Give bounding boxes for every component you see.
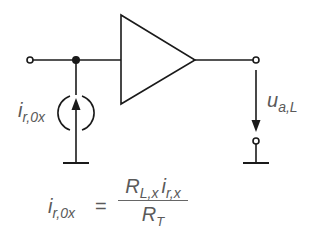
formula-fraction: RL,xir,x RT <box>118 176 188 224</box>
input-terminal <box>27 57 33 63</box>
output-ground-terminal <box>253 138 259 144</box>
current-source-arc-left <box>58 96 70 130</box>
voltage-arrow-down-icon <box>252 120 261 132</box>
output-voltage-label: ua,L <box>267 90 298 110</box>
output-terminal <box>253 57 259 63</box>
current-source-arc-right <box>82 96 94 130</box>
current-source-arrow-up-icon <box>72 98 81 110</box>
formula-lhs: ir,0x <box>48 196 75 216</box>
formula-denominator: RT <box>142 204 164 224</box>
formula-equals: = <box>95 196 107 216</box>
current-source-label: ir,0x <box>18 100 45 120</box>
formula-numerator: RL,xir,x <box>125 176 180 196</box>
amplifier-triangle <box>121 15 195 104</box>
